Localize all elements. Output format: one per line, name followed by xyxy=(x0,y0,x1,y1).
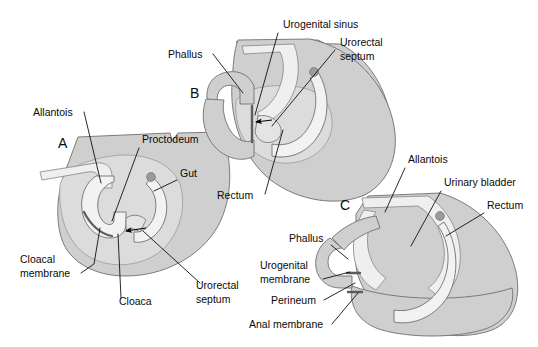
panel-letter-b: B xyxy=(190,85,199,101)
panel-letter-c: C xyxy=(340,197,350,213)
label-a-gut: Gut xyxy=(180,167,197,179)
label-a-urorectal-septum-line1: Urorectal xyxy=(196,279,239,291)
label-b-urorectal-septum-line2: septum xyxy=(340,50,375,62)
label-c-anal-membrane: Anal membrane xyxy=(249,318,323,330)
label-c-urogenital-membrane-line2: membrane xyxy=(260,273,310,285)
label-c-rectum: Rectum xyxy=(487,199,523,211)
figure-canvas: A B C Allantois Proctodeum Gut Cloacal m… xyxy=(0,0,538,347)
label-a-allantois: Allantois xyxy=(33,106,73,118)
label-b-urorectal-septum-line1: Urorectal xyxy=(340,36,383,48)
label-a-cloacal-membrane-line2: membrane xyxy=(20,267,70,279)
label-c-urogenital-membrane-line1: Urogenital xyxy=(260,259,308,271)
label-a-cloaca: Cloaca xyxy=(119,295,152,307)
label-b-urogenital-sinus: Urogenital sinus xyxy=(283,18,358,30)
label-c-phallus: Phallus xyxy=(289,232,323,244)
label-b-phallus: Phallus xyxy=(168,48,202,60)
panel-letter-a: A xyxy=(58,135,68,151)
label-a-proctodeum: Proctodeum xyxy=(142,133,199,145)
label-c-urinary-bladder: Urinary bladder xyxy=(444,176,516,188)
panel-c-rectum-node-dot xyxy=(436,212,445,221)
panel-a-gut-node-dot xyxy=(147,173,156,182)
label-a-cloacal-membrane-line1: Cloacal xyxy=(20,253,55,265)
label-c-perineum: Perineum xyxy=(271,294,316,306)
label-c-allantois: Allantois xyxy=(408,153,448,165)
anatomical-figure: A B C Allantois Proctodeum Gut Cloacal m… xyxy=(0,0,538,347)
label-a-urorectal-septum-line2: septum xyxy=(196,293,231,305)
label-b-rectum: Rectum xyxy=(217,189,253,201)
